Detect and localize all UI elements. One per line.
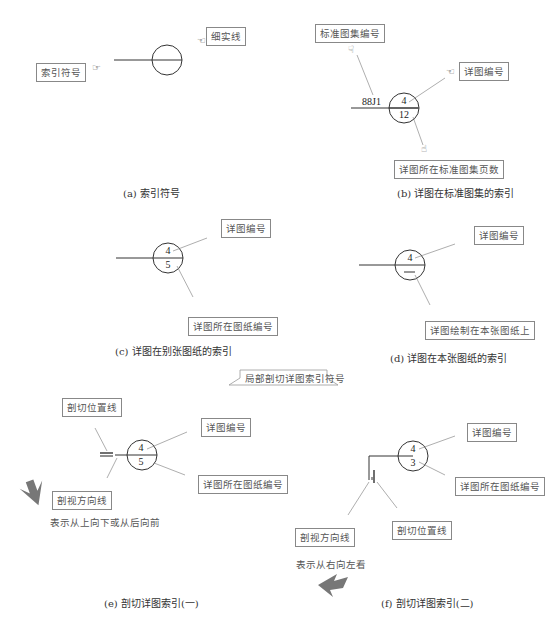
- label-atlas-number: 标准图集编号: [315, 24, 385, 43]
- label-same-sheet: 详图绘制在本张图纸上: [425, 321, 535, 340]
- note-f: 表示从右向左看: [296, 557, 366, 571]
- label-detail-number: 详图编号: [201, 418, 251, 437]
- caption-a: (a) 索引符号: [123, 185, 180, 200]
- detail-top-number: 4: [400, 252, 420, 263]
- label-index-symbol: 索引符号: [36, 63, 86, 82]
- label-detail-number: 详图编号: [221, 219, 271, 238]
- hand-pointer-icon: ☞: [92, 62, 101, 73]
- detail-top-number: 4: [131, 442, 151, 453]
- hand-pointer-icon: ☜: [197, 35, 206, 46]
- label-sheet-number: 详图所在图纸编号: [455, 477, 545, 496]
- section-banner: 局部剖切详图索引符号: [245, 371, 345, 385]
- label-cut-position: 剖切位置线: [392, 521, 452, 540]
- label-detail-number: 详图编号: [467, 423, 517, 442]
- label-detail-number: 详图编号: [474, 226, 524, 245]
- label-cut-position: 剖切位置线: [62, 398, 122, 417]
- label-detail-number: 详图编号: [459, 62, 509, 81]
- hand-pointer-icon: ☝: [421, 143, 427, 154]
- label-view-direction: 剖视方向线: [295, 528, 355, 547]
- detail-top-number: 4: [403, 443, 423, 454]
- detail-top-number: 4: [394, 95, 414, 106]
- diagram-lines: [0, 0, 560, 628]
- detail-bottom-number: 12: [394, 109, 414, 120]
- hand-pointer-icon: ☜: [446, 66, 455, 77]
- caption-f: (f) 剖切详图索引(二): [381, 595, 474, 610]
- detail-bottom-number: 5: [158, 259, 178, 270]
- atlas-code: 88J1: [362, 96, 381, 107]
- hand-pointer-icon: ☟: [348, 44, 354, 55]
- detail-bottom-number: 5: [131, 456, 151, 467]
- label-atlas-page: 详图所在标准图集页数: [394, 160, 504, 179]
- caption-c: (c) 详图在别张图纸的索引: [115, 343, 232, 358]
- label-sheet-number: 详图所在图纸编号: [198, 475, 288, 494]
- label-view-direction: 剖视方向线: [52, 491, 112, 510]
- label-thin-line: 细实线: [206, 27, 246, 46]
- caption-d: (d) 详图在本张图纸的索引: [390, 350, 507, 365]
- label-sheet-number: 详图所在图纸编号: [188, 317, 278, 336]
- caption-e: (e) 剖切详图索引(一): [104, 595, 199, 610]
- detail-bottom-number: 3: [403, 457, 423, 468]
- caption-b: (b) 详图在标准图集的索引: [397, 185, 514, 200]
- detail-top-number: 4: [158, 245, 178, 256]
- note-e: 表示从上向下或从后向前: [50, 515, 160, 529]
